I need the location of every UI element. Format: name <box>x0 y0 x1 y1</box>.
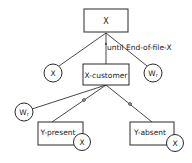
node-y-present-label: Y-present <box>40 128 76 137</box>
node-y-absent-label: Y-absent <box>133 128 166 137</box>
node-x-customer: X-customer <box>83 64 129 85</box>
selection-marker-right <box>129 103 132 106</box>
node-left-x-label: X <box>50 69 55 78</box>
node-y-absent-x: X <box>167 135 184 152</box>
edge-root-to-x-circle <box>59 33 106 66</box>
selection-marker-left <box>83 99 86 102</box>
node-x-customer-label: X-customer <box>85 71 129 80</box>
x-customer-edges <box>32 85 152 122</box>
node-root-label: X <box>103 17 109 26</box>
edge-xcustomer-to-y-present <box>52 85 106 122</box>
structure-chart-diagram: X until End-of-file-X X X-customer Wr Wr… <box>0 0 192 163</box>
node-y-present-x-label: X <box>79 138 84 147</box>
node-root: X <box>84 9 128 32</box>
edge-xcustomer-to-wr-circle <box>32 85 106 109</box>
node-right-wr: Wr <box>144 64 162 82</box>
node-y-present-x: X <box>74 134 91 151</box>
node-y-absent-x-label: X <box>172 139 177 148</box>
node-left-x: X <box>44 64 62 82</box>
iteration-annotation: until End-of-file-X <box>107 43 172 52</box>
node-lower-wr: Wr <box>15 103 33 121</box>
